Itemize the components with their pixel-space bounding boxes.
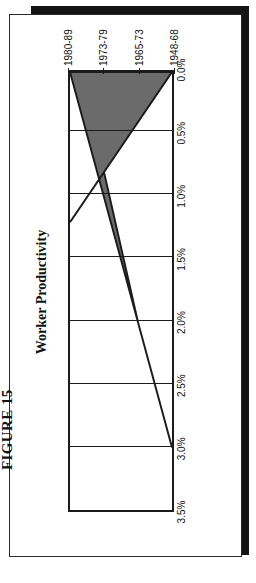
scan-shadow-top: [31, 6, 246, 14]
axis-tick: [103, 68, 104, 74]
value-axis-tick-label: 1.5%: [176, 248, 187, 271]
plot-area: [68, 70, 174, 512]
gridline: [70, 256, 172, 257]
chart-container: Worker Productivity 3.5%3.0%2.5%2.0%1.5%…: [34, 36, 210, 548]
gridline: [70, 383, 172, 384]
value-axis-labels: 3.5%3.0%2.5%2.0%1.5%1.0%0.5%0.0%: [176, 70, 192, 512]
gridline: [70, 446, 172, 447]
value-axis-tick-label: 0.5%: [176, 122, 187, 145]
value-axis-tick-label: 2.5%: [176, 374, 187, 397]
category-axis-tick-label: 1980-89: [63, 29, 74, 66]
category-axis-tick-label: 1973-79: [98, 29, 109, 66]
axis-tick: [139, 68, 140, 74]
area-series: [70, 72, 172, 510]
gridline: [70, 193, 172, 194]
value-axis-tick-label: 3.0%: [176, 437, 187, 460]
value-axis-tick-label: 3.5%: [176, 501, 187, 524]
figure-caption: FIGURE 15: [0, 350, 25, 470]
gridline: [70, 320, 172, 321]
category-axis-tick-label: 1965-73: [133, 29, 144, 66]
category-axis-labels: 1948-681965-731973-791980-89: [68, 36, 174, 68]
value-axis-tick-label: 2.0%: [176, 311, 187, 334]
category-axis-tick-label: 1948-68: [169, 29, 180, 66]
axis-tick: [68, 68, 69, 74]
chart-title: Worker Productivity: [34, 36, 60, 548]
figure-page: FIGURE 15 Worker Productivity 3.5%3.0%2.…: [0, 0, 256, 583]
gridline: [70, 130, 172, 131]
axis-tick: [174, 68, 175, 74]
value-axis-tick-label: 1.0%: [176, 185, 187, 208]
